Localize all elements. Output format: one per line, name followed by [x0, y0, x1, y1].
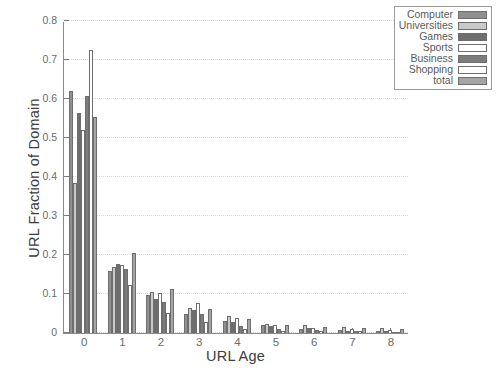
legend-swatch	[458, 66, 487, 74]
legend-label: total	[433, 75, 458, 86]
x-tick-label: 4	[228, 336, 248, 348]
bar-group	[299, 22, 327, 333]
x-tick-label: 1	[113, 336, 133, 348]
bar-group	[338, 22, 366, 333]
bar-group	[69, 22, 97, 333]
y-tick-label: 0.6	[42, 92, 57, 104]
bar	[362, 328, 366, 333]
bar-group	[223, 22, 251, 333]
x-tick-label: 6	[304, 336, 324, 348]
y-tick-label: 0.7	[42, 53, 57, 65]
legend-swatch	[458, 11, 487, 19]
legend-swatch	[458, 22, 487, 30]
legend-item: total	[399, 75, 487, 86]
y-tick-label: 0	[51, 326, 57, 338]
bar	[132, 253, 136, 333]
y-tick: 0.8	[64, 20, 408, 21]
bar-group	[261, 22, 289, 333]
x-axis-title: URL Age	[63, 348, 408, 364]
y-tick-label: 0.1	[42, 287, 57, 299]
x-tick-label: 2	[151, 336, 171, 348]
chart-legend: ComputerUniversitiesGamesSportsBusinessS…	[394, 6, 492, 90]
bar-group	[146, 22, 174, 333]
bar	[247, 319, 251, 333]
y-tick-label: 0.3	[42, 209, 57, 221]
legend-swatch	[458, 55, 487, 63]
bar-groups	[64, 22, 408, 333]
y-axis-title: URL Fraction of Domain	[26, 48, 42, 308]
y-tick-mark	[64, 20, 69, 21]
bar	[93, 117, 97, 333]
x-tick-label: 5	[266, 336, 286, 348]
x-tick-label: 7	[343, 336, 363, 348]
bar	[208, 309, 212, 333]
y-tick-label: 0.5	[42, 131, 57, 143]
x-tick-label: 0	[74, 336, 94, 348]
bar	[285, 325, 289, 333]
bar-group	[108, 22, 136, 333]
bar	[400, 329, 404, 333]
legend-swatch	[458, 77, 487, 85]
y-tick-label: 0.2	[42, 248, 57, 260]
bar-group	[184, 22, 212, 333]
bar	[170, 289, 174, 333]
x-tick-label: 3	[189, 336, 209, 348]
legend-swatch	[458, 44, 487, 52]
legend-swatch	[458, 33, 487, 41]
bar	[323, 327, 327, 333]
y-tick-label: 0.8	[42, 14, 57, 26]
y-tick-label: 0.4	[42, 170, 57, 182]
chart-figure: URL Fraction of Domain 00.10.20.30.40.50…	[0, 0, 498, 374]
x-tick-label: 8	[381, 336, 401, 348]
plot-area: 00.10.20.30.40.50.60.70.8 012345678	[63, 22, 408, 334]
